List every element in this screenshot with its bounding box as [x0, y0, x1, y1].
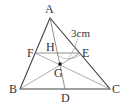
geometry-diagram: A B C D E F G H 3cm	[0, 0, 128, 110]
measure-label: 3cm	[71, 27, 90, 39]
label-f: F	[27, 46, 34, 60]
label-e: E	[82, 46, 89, 60]
label-a: A	[45, 2, 54, 16]
label-c: C	[112, 82, 120, 96]
label-d: D	[61, 91, 70, 105]
label-h: H	[46, 40, 55, 54]
label-g: G	[54, 66, 63, 80]
label-b: B	[9, 82, 17, 96]
